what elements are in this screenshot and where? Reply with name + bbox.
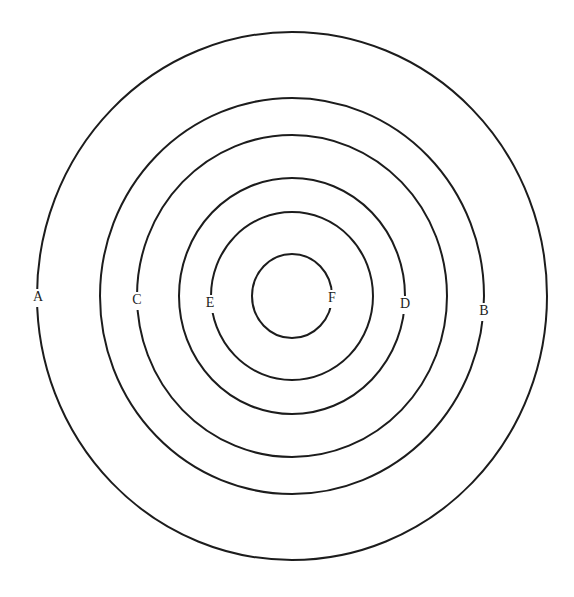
circle-label-d: D: [400, 296, 410, 311]
concentric-circles-diagram: ABCDEF: [0, 0, 574, 597]
circle-label-c: C: [132, 292, 141, 307]
circle-label-b: B: [479, 303, 488, 318]
circle-f: [252, 254, 332, 338]
circle-label-a: A: [33, 289, 44, 304]
circle-e: [211, 212, 373, 380]
circle-b: [100, 98, 484, 494]
rings-group: [37, 32, 547, 560]
circle-label-e: E: [206, 295, 215, 310]
circle-a: [37, 32, 547, 560]
circle-label-f: F: [328, 290, 336, 305]
